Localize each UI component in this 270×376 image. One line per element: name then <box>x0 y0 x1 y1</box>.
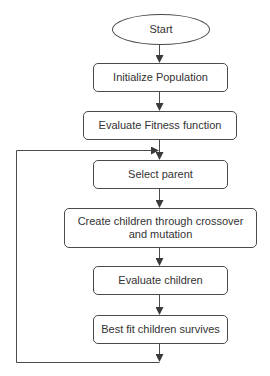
node-init-label: Initialize Population <box>113 71 208 84</box>
node-select-label: Select parent <box>128 168 193 181</box>
node-evalchild-label: Evaluate children <box>118 274 202 287</box>
node-start: Start <box>112 14 210 45</box>
node-create-label-line1: Create children through crossover <box>78 215 244 228</box>
node-create-children: Create children through crossover and mu… <box>64 208 257 248</box>
node-best-fit-survives: Best fit children survives <box>93 315 228 344</box>
node-best-label: Best fit children survives <box>101 323 220 336</box>
flowchart-canvas: Start Initialize Population Evaluate Fit… <box>0 0 270 376</box>
node-initialize-population: Initialize Population <box>93 63 228 92</box>
node-create-label-line2: and mutation <box>129 228 193 241</box>
node-select-parent: Select parent <box>93 160 228 189</box>
node-evaluate-fitness: Evaluate Fitness function <box>83 111 237 140</box>
node-evaluate-children: Evaluate children <box>93 266 228 295</box>
node-start-label: Start <box>149 23 172 36</box>
node-evalfit-label: Evaluate Fitness function <box>99 119 222 132</box>
